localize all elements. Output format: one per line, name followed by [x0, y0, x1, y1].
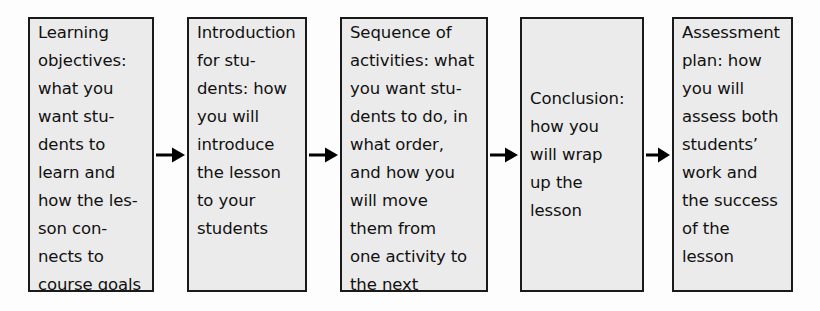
- arrow-right-icon: [309, 144, 338, 166]
- flow-box-sequence-of-activities: Sequence of activities: what you want st…: [340, 17, 488, 292]
- flow-box-text: Introduction for stu- dents: how you wil…: [189, 19, 305, 243]
- arrow-right-icon: [490, 144, 518, 166]
- flow-box-learning-objectives: Learning objectives: what you want stu- …: [28, 17, 154, 292]
- arrow-right-icon: [156, 144, 185, 166]
- arrow-right-icon: [646, 144, 670, 166]
- flow-box-text: Conclusion: how you will wrap up the les…: [522, 85, 642, 225]
- process-flow-diagram: Learning objectives: what you want stu- …: [0, 0, 820, 311]
- flow-box-text: Learning objectives: what you want stu- …: [30, 19, 152, 292]
- flow-box-conclusion: Conclusion: how you will wrap up the les…: [520, 17, 644, 292]
- flow-box-assessment-plan: Assessment plan: how you will assess bot…: [672, 17, 793, 292]
- flow-box-text: Sequence of activities: what you want st…: [342, 19, 486, 292]
- flow-box-introduction: Introduction for stu- dents: how you wil…: [187, 17, 307, 292]
- flow-box-text: Assessment plan: how you will assess bot…: [674, 19, 791, 271]
